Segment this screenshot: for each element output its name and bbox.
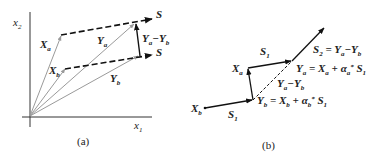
x-axis-label: x1 xyxy=(133,119,142,134)
caption-a: (a) xyxy=(77,135,90,148)
label-diff: Ya−Yb xyxy=(142,32,170,47)
label-yb-equation: Yb = Xb + αb* S1 xyxy=(257,94,327,109)
panel-a: x2 x1 S S Xa Xb Ya Yb Ya−Yb (a) xyxy=(12,8,170,148)
vector-yb xyxy=(30,56,138,116)
label-s-top: S xyxy=(156,8,162,20)
label-yb: Yb xyxy=(110,72,121,87)
panel-b: Xb S1 Xa S1 Ya−Yb Ya = Xa + αa* S1 Yb = … xyxy=(190,28,366,152)
step-yb-to-xa xyxy=(248,69,253,100)
label-xb: Xb xyxy=(48,64,60,79)
label-ya: Ya xyxy=(97,34,108,49)
label-s1-bottom: S1 xyxy=(228,108,238,123)
label-xa: Xa xyxy=(39,38,51,53)
step-s1-bottom xyxy=(205,100,252,108)
label-s-bottom: S xyxy=(156,46,162,58)
label-diff-b: Ya−Yb xyxy=(277,77,305,92)
label-xb-b: Xb xyxy=(190,102,202,117)
step-s1-top xyxy=(248,61,291,68)
label-ya-equation: Ya = Xa + αa* S1 xyxy=(296,62,366,77)
label-s2-equation: S2 = Ya−Yb xyxy=(313,43,362,58)
caption-b: (b) xyxy=(262,139,275,152)
label-xa-b: Xa xyxy=(231,62,243,77)
label-s1-top: S1 xyxy=(260,45,270,60)
figure: x2 x1 S S Xa Xb Ya Yb Ya−Yb (a) Xb S1 Xa… xyxy=(0,0,373,158)
diff-vector xyxy=(136,24,140,56)
y-axis-label: x2 xyxy=(12,16,22,31)
search-line-a xyxy=(61,19,152,35)
search-line-b xyxy=(65,55,152,69)
